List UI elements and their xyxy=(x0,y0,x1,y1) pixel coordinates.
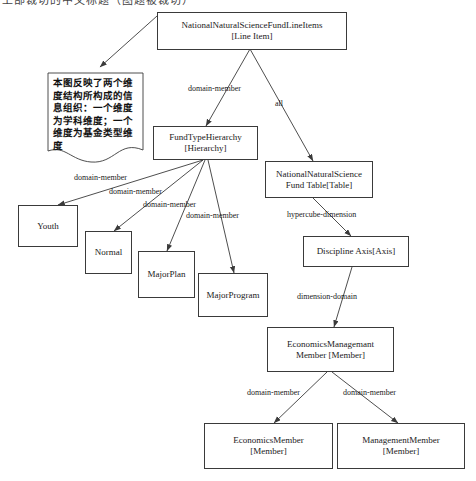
edge-label-text: hypercube-dimension xyxy=(287,210,356,219)
node-discipline-axis[interactable]: Discipline Axis[Axis] xyxy=(303,236,409,267)
node-label: MajorPlan xyxy=(148,269,186,280)
node-label: ManagementMember [Member] xyxy=(362,435,439,456)
annotation-note: 本图反映了两个维度结构所构成的信息组织：一个维度为学科维度；一个维度为基金类型维… xyxy=(47,72,144,164)
node-major-plan[interactable]: MajorPlan xyxy=(138,251,195,298)
node-youth[interactable]: Youth xyxy=(18,205,78,247)
edge-label-text: all xyxy=(275,99,283,108)
edge-label-domain-member-normal: domain-member xyxy=(109,188,162,196)
diagram-canvas: 上部裁切的中文标题（图题被裁切） NationalNatu xyxy=(0,0,476,481)
edge-ecomgmt-to-managementmember xyxy=(332,372,398,423)
edge-label-text: domain-member xyxy=(186,211,239,220)
edge-label-domain-member-economicsmember: domain-member xyxy=(247,389,300,397)
node-economics-managemant-member[interactable]: EconomicsManagemant Member [Member] xyxy=(267,327,394,372)
node-fund-type-hierarchy[interactable]: FundTypeHierarchy [Hierarchy] xyxy=(153,126,258,160)
node-label: Normal xyxy=(95,247,123,258)
edge-label-text: dimension-domain xyxy=(297,292,357,301)
node-label: FundTypeHierarchy [Hierarchy] xyxy=(169,132,241,153)
edge-lineitems-to-note xyxy=(100,16,157,67)
node-label: NationalNaturalScienceFundLineItems [Lin… xyxy=(182,20,323,41)
edge-label-text: domain-member xyxy=(343,388,396,397)
edge-label-all: all xyxy=(275,100,283,108)
node-label: NationalNaturalScience Fund Table[Table] xyxy=(276,169,362,190)
edge-label-text: domain-member xyxy=(109,187,162,196)
node-label: EconomicsMember [Member] xyxy=(233,435,303,456)
edge-ecomgmt-to-economicsmember xyxy=(274,372,327,423)
node-label: Discipline Axis[Axis] xyxy=(317,246,396,257)
edge-hierarchy-to-youth xyxy=(58,160,203,205)
edge-label-text: domain-member xyxy=(247,388,300,397)
node-economics-member[interactable]: EconomicsMember [Member] xyxy=(204,423,333,469)
edge-label-hypercube-dimension: hypercube-dimension xyxy=(287,211,356,219)
cropped-caption-text: 上部裁切的中文标题（图题被裁切） xyxy=(2,0,194,7)
node-label: EconomicsManagemant Member [Member] xyxy=(287,339,374,360)
edge-label-domain-member-managementmember: domain-member xyxy=(343,389,396,397)
annotation-note-text: 本图反映了两个维度结构所构成的信息组织：一个维度为学科维度；一个维度为基金类型维… xyxy=(53,77,139,152)
edge-label-dimension-domain: dimension-domain xyxy=(297,293,357,301)
edge-label-text: domain-member xyxy=(143,200,196,209)
node-management-member[interactable]: ManagementMember [Member] xyxy=(337,423,465,469)
node-label: MajorProgram xyxy=(207,290,260,301)
edge-label-domain-member-youth: domain-member xyxy=(74,174,127,182)
edge-label-text: domain-member xyxy=(74,173,127,182)
cropped-figure-caption: 上部裁切的中文标题（图题被裁切） xyxy=(0,0,476,9)
node-label: Youth xyxy=(37,221,59,232)
edge-label-domain-member-majorplan: domain-member xyxy=(143,201,196,209)
node-normal[interactable]: Normal xyxy=(85,231,132,274)
edge-label-domain-member-hierarchy: domain-member xyxy=(188,85,241,93)
edge-label-domain-member-majorprogram: domain-member xyxy=(186,212,239,220)
node-major-program[interactable]: MajorProgram xyxy=(198,273,268,317)
node-national-natural-science-fund-table[interactable]: NationalNaturalScience Fund Table[Table] xyxy=(265,161,373,198)
node-national-natural-science-fund-line-items[interactable]: NationalNaturalScienceFundLineItems [Lin… xyxy=(157,12,347,50)
edge-label-text: domain-member xyxy=(188,84,241,93)
